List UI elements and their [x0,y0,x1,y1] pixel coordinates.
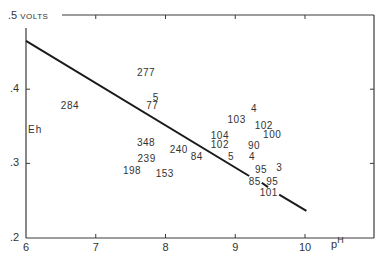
data-point-label: 103 [228,115,246,125]
data-point-label: 239 [138,154,156,164]
data-point-label: 5 [228,152,234,162]
axis-ticks [26,15,374,238]
data-point-label: 100 [263,130,281,140]
data-point-label: 153 [156,169,174,179]
x-tick-label: 7 [93,242,99,253]
data-point-label: 277 [137,68,155,78]
x-tick-label: 10 [299,242,311,253]
data-point-label: 84 [191,152,203,162]
data-point-label: 3 [276,163,282,173]
data-point-label: 4 [251,104,257,114]
data-point-label: 102 [211,140,229,150]
x-tick-label: 6 [23,242,29,253]
data-point-label: 95 [266,177,278,187]
y-tick-label: .3 [10,157,19,168]
x-tick-label: 9 [232,242,238,253]
x-axis-title: pH [331,235,344,250]
data-point-label: 95 [255,165,267,175]
y-tick-top-label: .5 VOLTS [8,10,48,22]
data-point-label: 4 [249,152,255,162]
y-unit-label: VOLTS [20,12,48,21]
data-point-label: 77 [146,101,158,111]
plot-frame [26,15,374,238]
y-tick-05: .5 [8,9,17,21]
y-tick-label: .4 [10,83,19,94]
data-point-label: 348 [137,138,155,148]
data-point-label: 198 [123,166,141,176]
data-point-label: 85 [249,177,261,187]
data-point-label: 240 [170,145,188,155]
eh-ph-chart: .5 VOLTS Eh pH 678910.2.3.4 284277577348… [0,0,384,257]
y-axis-title: Eh [28,124,42,135]
plot-area [0,0,384,257]
x-tick-label: 8 [163,242,169,253]
data-point-label: 101 [260,188,278,198]
boundary-end-segment [279,195,306,211]
data-point-label: 284 [61,101,79,111]
y-tick-label: .2 [10,232,19,243]
